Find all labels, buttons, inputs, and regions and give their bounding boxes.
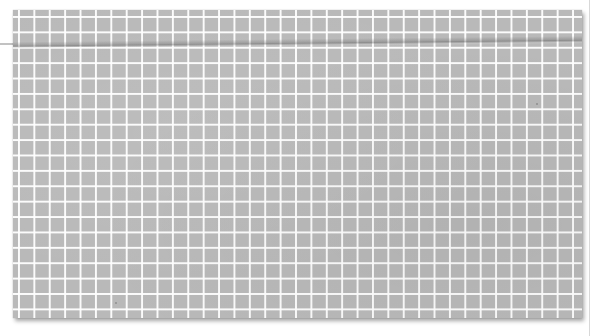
paper-speck <box>115 302 117 304</box>
background-edge-line <box>589 0 590 336</box>
photo-stage <box>0 0 594 336</box>
paper-speck <box>536 103 538 105</box>
grid-paper-sheet <box>13 10 582 318</box>
crease-shadow-outside <box>0 43 14 45</box>
paper-crease <box>13 36 582 50</box>
